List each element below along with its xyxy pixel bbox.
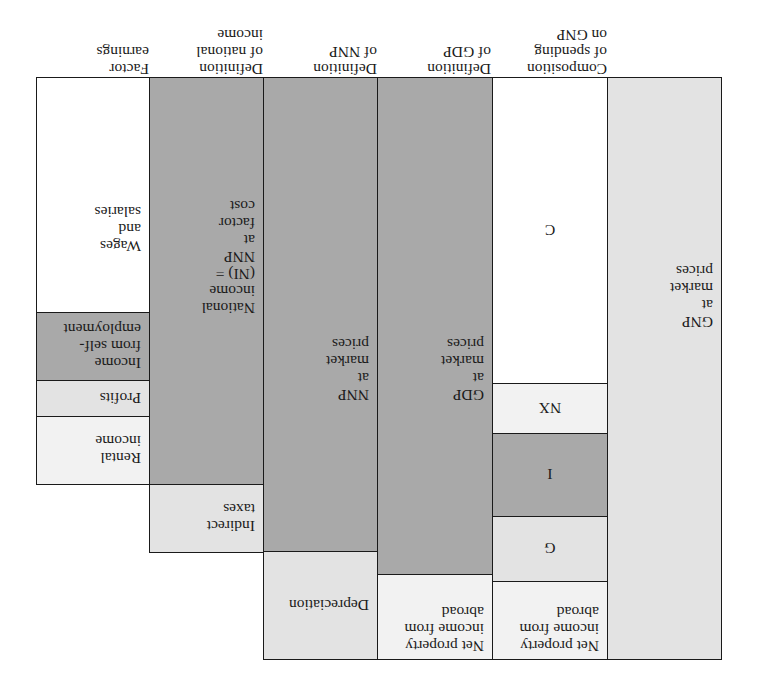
- factor-rental-income: Rental income: [36, 416, 150, 485]
- comp-net-exports: NX: [492, 383, 608, 434]
- factor-profits: Profits: [36, 380, 150, 417]
- factor-self-employment-income: Income from self- employment: [36, 312, 150, 381]
- factor-wages-salaries: Wages and salaries: [36, 77, 150, 313]
- comp-government-spending: G: [492, 516, 608, 582]
- nnp-depreciation: Depreciation: [263, 551, 378, 660]
- header-gdp: Definition of GDP: [427, 44, 491, 78]
- comp-net-property-income: Net property income from abroad: [492, 581, 608, 660]
- gdp-at-market-prices: GDP at market prices: [377, 77, 493, 575]
- ni-indirect-taxes: Indirect taxes: [149, 484, 264, 553]
- gdp-net-property-income: Net property income from abroad: [377, 574, 493, 660]
- header-composition: Composition of spending on GNP: [527, 27, 607, 78]
- header-ni: Definition of national income: [196, 27, 263, 78]
- nnp-at-market-prices: NNP at market prices: [263, 77, 378, 552]
- comp-consumption: C: [492, 77, 608, 384]
- header-factor: Factor earnings: [96, 44, 149, 78]
- gnp-block: GNP at market prices: [607, 77, 722, 660]
- comp-investment: I: [492, 433, 608, 517]
- national-income-diagram: Composition of spending on GNP Definitio…: [0, 0, 763, 692]
- ni-national-income: National income (NI) = NNP at factor cos…: [149, 77, 264, 485]
- header-nnp: Definition of NNP: [313, 44, 377, 78]
